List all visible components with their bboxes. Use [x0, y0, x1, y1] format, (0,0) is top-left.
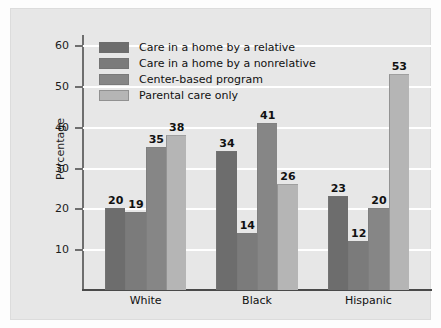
chart-legend: Care in a home by a relativeCare in a ho…: [99, 41, 316, 102]
legend-item: Parental care only: [99, 89, 316, 102]
legend-item: Care in a home by a nonrelative: [99, 57, 316, 70]
bar: 34: [216, 151, 236, 290]
legend-swatch: [99, 90, 129, 101]
bar-value-label: 20: [108, 194, 123, 207]
bar: 19: [125, 212, 145, 290]
bar: 14: [237, 233, 257, 290]
x-axis-category-label: White: [130, 294, 162, 307]
bar-value-label: 14: [240, 219, 255, 232]
legend-swatch: [99, 42, 129, 53]
legend-item: Center-based program: [99, 73, 316, 86]
bar: 23: [328, 196, 348, 290]
legend-swatch: [99, 74, 129, 85]
legend-label: Center-based program: [139, 73, 263, 86]
legend-label: Care in a home by a relative: [139, 41, 295, 54]
chart-card: Percentage 102030405060 2019353834144126…: [11, 9, 430, 319]
bar: 20: [105, 208, 125, 290]
bar-value-label: 19: [128, 198, 143, 211]
y-axis-tick-label: 50: [11, 79, 69, 92]
y-axis-tick-label: 20: [11, 202, 69, 215]
bar: 53: [389, 74, 409, 290]
bar-value-label: 26: [280, 170, 295, 183]
y-axis-tick-label: 10: [11, 243, 69, 256]
y-axis-tick-label: 30: [11, 161, 69, 174]
bar-value-label: 23: [331, 182, 346, 195]
bar: 38: [166, 135, 186, 290]
y-axis-tick-label: 60: [11, 39, 69, 52]
y-axis-tick-label: 40: [11, 120, 69, 133]
bar-value-label: 34: [219, 137, 234, 150]
bar-value-label: 41: [260, 109, 275, 122]
chart-page: Percentage 102030405060 2019353834144126…: [0, 0, 441, 328]
x-axis-category-label: Hispanic: [345, 294, 392, 307]
legend-swatch: [99, 58, 129, 69]
legend-item: Care in a home by a relative: [99, 41, 316, 54]
bar: 12: [348, 241, 368, 290]
legend-label: Parental care only: [139, 89, 238, 102]
bar-value-label: 53: [392, 60, 407, 73]
legend-label: Care in a home by a nonrelative: [139, 57, 316, 70]
bar: 41: [257, 123, 277, 290]
bar: 26: [277, 184, 297, 290]
bar: 35: [146, 147, 166, 290]
bar-value-label: 12: [351, 227, 366, 240]
x-axis-category-label: Black: [242, 294, 272, 307]
bar-value-label: 35: [149, 133, 164, 146]
bar: 20: [368, 208, 388, 290]
bar-value-label: 38: [169, 121, 184, 134]
bar-value-label: 20: [371, 194, 386, 207]
